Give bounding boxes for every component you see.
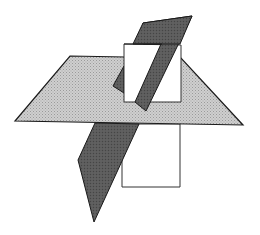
diagram-canvas — [0, 0, 260, 235]
intersecting-planes-diagram — [0, 0, 260, 235]
oblique-plane-top — [133, 16, 192, 44]
